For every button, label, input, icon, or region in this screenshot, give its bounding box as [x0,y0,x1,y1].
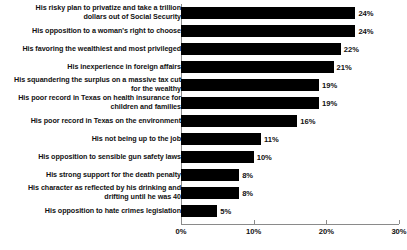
bar-track: 5% [181,205,399,217]
bar-value-label: 10% [254,153,272,162]
category-label: His squandering the surplus on a massive… [3,76,181,93]
category-label: His risky plan to privatize and take a t… [3,4,181,21]
bar-row: His character as reflected by his drinki… [0,184,407,202]
bar [181,205,217,217]
category-label: His poor record in Texas on health insur… [3,94,181,111]
category-label: His poor record in Texas on the environm… [3,117,181,126]
bar-track: 22% [181,43,399,55]
bar-row: His strong support for the death penalty… [0,166,407,184]
bar [181,169,239,181]
bar-track: 19% [181,97,399,109]
bar-value-label: 8% [239,171,253,180]
bar [181,187,239,199]
category-label: His opposition to sensible gun safety la… [3,153,181,162]
bar-track: 8% [181,187,399,199]
x-axis-tick-label: 30% [391,227,406,236]
bar-row: His poor record in Texas on health insur… [0,94,407,112]
bar [181,7,355,19]
bar [181,133,261,145]
bar-track: 8% [181,169,399,181]
bar-row: His favoring the wealthiest and most pri… [0,40,407,58]
bar-track: 11% [181,133,399,145]
bar-row: His risky plan to privatize and take a t… [0,4,407,22]
category-label: His inexperience in foreign affairs [3,63,181,72]
bar-row: His not being up to the job11% [0,130,407,148]
bar-value-label: 24% [355,9,373,18]
bar-rows: His risky plan to privatize and take a t… [0,4,407,220]
bar [181,79,319,91]
category-label: His strong support for the death penalty [3,171,181,180]
bar-row: His poor record in Texas on the environm… [0,112,407,130]
x-axis-tick [399,220,400,224]
x-axis-tick-label: 0% [176,227,187,236]
bar-row: His opposition to a woman's right to cho… [0,22,407,40]
bar-value-label: 24% [355,27,373,36]
x-axis-line [181,224,399,225]
category-label: His opposition to hate crimes legislatio… [3,207,181,216]
category-label: His opposition to a woman's right to cho… [3,27,181,36]
bar [181,115,297,127]
category-label: His character as reflected by his drinki… [3,184,181,201]
bar [181,151,254,163]
bar-track: 21% [181,61,399,73]
bar-row: His inexperience in foreign affairs21% [0,58,407,76]
bar [181,25,355,37]
bar-value-label: 11% [261,135,279,144]
bar-value-label: 5% [217,207,231,216]
bar-value-label: 21% [334,63,352,72]
bar [181,61,334,73]
x-axis-tick [326,220,327,224]
bar-track: 10% [181,151,399,163]
bar [181,43,341,55]
x-axis-tick [254,220,255,224]
bar-track: 16% [181,115,399,127]
bar-value-label: 16% [297,117,315,126]
bar-chart: His risky plan to privatize and take a t… [0,0,407,250]
category-label: His not being up to the job [3,135,181,144]
bar-row: His squandering the surplus on a massive… [0,76,407,94]
bar-row: His opposition to sensible gun safety la… [0,148,407,166]
category-label: His favoring the wealthiest and most pri… [3,45,181,54]
bar-value-label: 19% [319,99,337,108]
x-axis-tick-label: 20% [319,227,334,236]
bar-track: 19% [181,79,399,91]
bar-row: His opposition to hate crimes legislatio… [0,202,407,220]
x-axis-tick [181,220,182,224]
bar-value-label: 8% [239,189,253,198]
bar-value-label: 19% [319,81,337,90]
bar-track: 24% [181,7,399,19]
bar-track: 24% [181,25,399,37]
bar [181,97,319,109]
x-axis-tick-label: 10% [246,227,261,236]
bar-value-label: 22% [341,45,359,54]
